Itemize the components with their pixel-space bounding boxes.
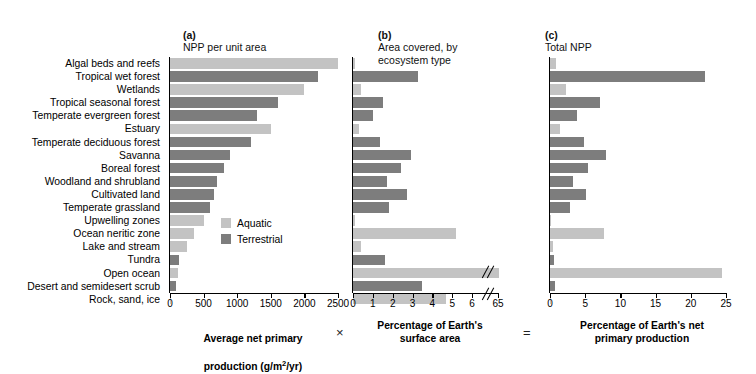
bar [353,84,361,95]
panel-b-tag: (b) [378,29,391,41]
bar [170,84,304,95]
panel-c-title: (c) Total NPP [545,16,592,54]
bar [170,281,176,292]
category-label: Upwelling zones [0,214,166,227]
bar-row [550,57,726,70]
axis-break-marker [483,267,496,278]
bar [353,255,385,266]
bar [353,241,361,252]
bar [353,150,411,161]
bar [353,137,380,148]
panel-a-title-text: NPP per unit area [183,41,266,53]
axis-line [170,293,338,294]
axis-break-marker [483,289,496,300]
bar-row [550,280,726,293]
bar-row [353,122,499,135]
bar-row [353,70,499,83]
legend-label: Terrestrial [237,234,283,245]
bar-row [353,227,499,240]
panel-b: 012345665 [352,57,499,293]
axis-tick [691,293,692,298]
bar-row [550,162,726,175]
bar-row [353,188,499,201]
bar [170,189,214,200]
category-label: Tundra [0,253,166,266]
bar [353,215,355,226]
bar [170,268,178,279]
axis-tick [498,293,499,298]
bar-row [550,96,726,109]
category-label: Rock, sand, ice [0,293,166,306]
bar [550,228,604,239]
bar [550,124,560,135]
category-label: Temperate evergreen forest [0,109,166,122]
axis-tick-label: 1000 [226,298,248,309]
bar-row [170,253,338,266]
category-label: Tropical seasonal forest [0,96,166,109]
bar [353,71,418,82]
bar-row [170,149,338,162]
bar-row [170,136,338,149]
axis-tick-label: 1500 [260,298,282,309]
legend-item: Aquatic [221,216,283,230]
bar-row [550,201,726,214]
bar [353,176,387,187]
bar [170,163,224,174]
legend: AquaticTerrestrial [221,216,283,248]
panel-c-title-text: Total NPP [545,41,592,53]
panel-a-tag: (a) [183,29,196,41]
bar-row [353,136,499,149]
bar-row [353,280,499,293]
bar [170,176,217,187]
bar [550,71,705,82]
axis-tick-label: 2 [390,298,396,309]
bar-row [353,253,499,266]
bar-row [550,214,726,227]
bar-row [170,188,338,201]
axis-tick [413,293,414,298]
axis-tick-label: 2000 [293,298,315,309]
axis-tick [452,293,453,298]
bar-row [353,175,499,188]
category-label: Temperate grassland [0,201,166,214]
bar [550,84,566,95]
bar-row [353,267,499,280]
bar-row [353,214,499,227]
category-label: Temperate deciduous forest [0,136,166,149]
legend-swatch-terrestrial [221,234,231,244]
bar-row [550,240,726,253]
axis-tick-label: 0 [167,298,173,309]
bar [550,241,553,252]
bar [170,137,251,148]
category-label: Tropical wet forest [0,70,166,83]
bar [550,255,554,266]
bar-row [353,162,499,175]
bar-row [170,175,338,188]
bar-row [170,162,338,175]
bar-row [550,293,726,306]
bar [550,110,577,121]
bar [550,58,556,69]
bar [170,202,210,213]
bar [550,163,588,174]
panel-a-title: (a) NPP per unit area [183,16,266,54]
panel-c-axis-caption: Percentage of Earth's net primary produc… [560,320,724,345]
category-label: Cultivated land [0,188,166,201]
bar [353,228,456,239]
bar-row [170,57,338,70]
axis-tick [170,293,171,298]
bar [353,189,407,200]
panel-a: 05001000150020002500 [169,57,338,293]
axis-tick-label: 6 [469,298,475,309]
bar-row [170,122,338,135]
bar-row [353,240,499,253]
bar-row [353,149,499,162]
axis-tick [204,293,205,298]
bar [550,189,586,200]
panel-a-caption-line1: Average net primary [203,333,302,344]
category-label: Wetlands [0,83,166,96]
axis-tick-label: 10 [615,298,626,309]
legend-swatch-aquatic [221,218,231,228]
bar-row [550,109,726,122]
panel-c-plot: 0510152025 [549,57,726,293]
